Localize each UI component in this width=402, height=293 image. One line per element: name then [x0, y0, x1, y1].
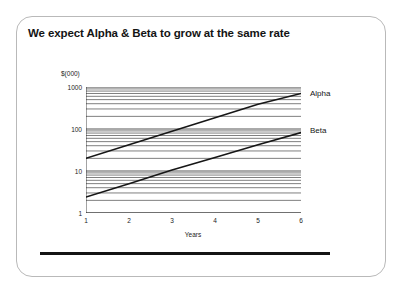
y-tick-label-1000: 1000 [56, 84, 82, 91]
series-line-alpha [86, 94, 301, 159]
log-line-chart: $(000) 1000 100 10 1 1 2 3 4 5 6 Years A… [0, 0, 370, 261]
x-axis-title: Years [176, 231, 210, 238]
y-tick-label-10: 10 [56, 168, 82, 175]
x-tick-label-6: 6 [294, 217, 308, 224]
series-label-alpha: Alpha [310, 89, 330, 98]
series-label-beta: Beta [310, 126, 326, 135]
gridlines [86, 87, 301, 213]
x-tick-label-5: 5 [251, 217, 265, 224]
axis-lines [86, 87, 301, 213]
axis-ticks [86, 87, 301, 213]
x-tick-label-4: 4 [208, 217, 222, 224]
plot-svg [86, 87, 301, 213]
slide-root: We expect Alpha & Beta to grow at the sa… [0, 0, 402, 293]
y-tick-label-100: 100 [56, 126, 82, 133]
y-axis-unit-label: $(000) [61, 70, 80, 77]
x-tick-label-1: 1 [79, 217, 93, 224]
plot-area [86, 87, 301, 213]
bottom-rule [40, 252, 330, 255]
x-tick-label-3: 3 [165, 217, 179, 224]
series-line-beta [86, 133, 301, 197]
y-tick-label-1: 1 [56, 210, 82, 217]
x-tick-label-2: 2 [122, 217, 136, 224]
